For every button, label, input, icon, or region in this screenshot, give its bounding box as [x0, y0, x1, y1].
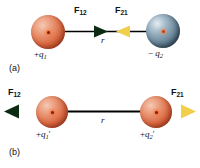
panel-a: F12 F21 r +q1 − q2 (a): [0, 0, 200, 84]
coulomb-force-figure: F12 F21 r +q1 − q2 (a): [0, 0, 200, 168]
force-label-f21-b: F21: [171, 88, 184, 99]
charge-sphere-positive-q1: [31, 15, 65, 49]
charge-sphere-negative-q2: [146, 14, 180, 48]
panel-label-b: (b): [9, 148, 20, 157]
panel-b-vectors: [0, 84, 200, 168]
separation-label-a: r: [101, 36, 105, 45]
charge-core-dot: [51, 111, 54, 114]
charge-core-dot: [155, 111, 158, 114]
force-label-f21-a: F21: [115, 6, 128, 17]
separation-label-b: r: [101, 116, 105, 125]
panel-b: F12 F21 r +q1′ +q2′ (b): [0, 84, 200, 168]
charge-label-q2-prime: +q2′: [140, 130, 155, 141]
charge-label-q2: − q2: [148, 49, 163, 60]
charge-label-q1-prime: +q1′: [36, 130, 51, 141]
charge-core-dot: [162, 30, 165, 33]
charge-sphere-positive-q2-prime: [140, 96, 172, 128]
panel-label-a: (a): [9, 64, 20, 73]
charge-sphere-positive-q1-prime: [36, 96, 68, 128]
force-label-f12-b: F12: [8, 88, 21, 99]
charge-label-q1: +q1: [34, 50, 47, 61]
charge-core-dot: [47, 31, 50, 34]
force-label-f12-a: F12: [74, 6, 87, 17]
